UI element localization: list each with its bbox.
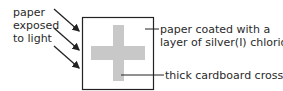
label-cardboard-cross: thick cardboard cross [165,69,283,82]
label-coated-line2: layer of silver(I) chloride [160,36,283,49]
label-exposed: exposed [13,19,59,32]
label-to-light: to light [13,32,52,45]
label-paper: paper [13,6,45,19]
cross-horizontal-bar [91,46,145,60]
light-arrow-3 [54,46,79,68]
label-coated-line1: paper coated with a [160,23,270,36]
